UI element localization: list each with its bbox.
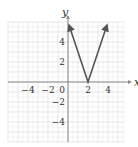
y-tick-label: −2 [52,97,65,107]
x-tick-label: 4 [105,85,111,95]
x-tick-label: −4 [21,85,35,95]
x-tick-label: 0 [59,85,65,95]
y-tick-label: 2 [59,57,65,67]
y-axis-label: y [61,6,69,19]
axes [8,16,131,142]
x-tick-label: 2 [85,85,91,95]
y-tick-label: −4 [52,117,66,127]
x-tick-label: −2 [41,85,54,95]
x-axis-label: x [134,76,138,89]
y-tick-label: 4 [59,37,65,47]
function-graph: −4−202442−2−4 x y [0,0,138,147]
